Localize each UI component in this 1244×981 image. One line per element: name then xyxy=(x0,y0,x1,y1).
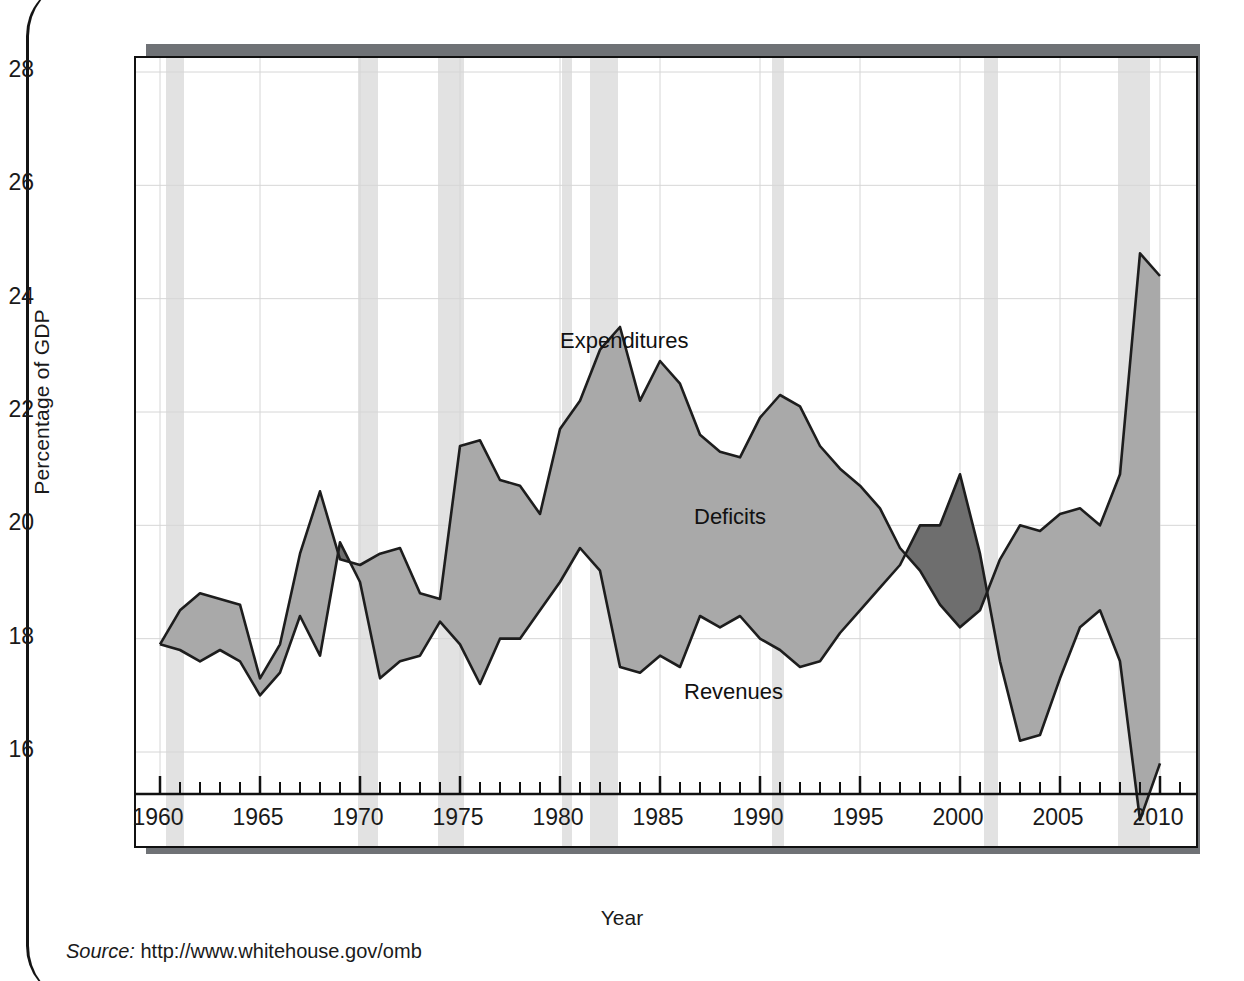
y-tick-label: 28 xyxy=(0,58,34,81)
x-tick-label: 1990 xyxy=(713,806,803,829)
chart-plot-frame xyxy=(134,56,1198,848)
x-tick-label: 2000 xyxy=(913,806,1003,829)
y-tick-label: 26 xyxy=(0,171,34,194)
x-tick-label: 2005 xyxy=(1013,806,1103,829)
annotation-deficits: Deficits xyxy=(694,504,766,530)
x-tick-label: 2010 xyxy=(1113,806,1203,829)
recession-band xyxy=(166,58,184,846)
source-note: Source: http://www.whitehouse.gov/omb xyxy=(66,940,422,963)
x-tick-label: 1970 xyxy=(313,806,403,829)
y-tick-label: 22 xyxy=(0,398,34,421)
x-axis-title: Year xyxy=(0,906,1244,930)
annotation-expenditures: Expenditures xyxy=(560,328,688,354)
recession-band xyxy=(984,58,998,846)
deficit-area xyxy=(350,327,905,684)
source-label: Source: xyxy=(66,940,135,962)
y-tick-label: 16 xyxy=(0,738,34,761)
x-tick-label: 1980 xyxy=(513,806,603,829)
x-axis xyxy=(136,776,1196,794)
recession-band xyxy=(358,58,378,846)
budget-area-chart xyxy=(136,58,1196,846)
x-tick-label: 1965 xyxy=(213,806,303,829)
x-tick-label: 1985 xyxy=(613,806,703,829)
figure-root: Percentage of GDP 16182022242628 1960196… xyxy=(0,0,1244,981)
x-tick-label: 1960 xyxy=(113,806,203,829)
source-url: http://www.whitehouse.gov/omb xyxy=(141,940,422,962)
x-tick-label: 1995 xyxy=(813,806,903,829)
y-tick-label: 20 xyxy=(0,511,34,534)
y-tick-label: 18 xyxy=(0,625,34,648)
y-tick-label: 24 xyxy=(0,285,34,308)
annotation-revenues: Revenues xyxy=(684,679,783,705)
surplus-area xyxy=(905,474,987,627)
x-tick-label: 1975 xyxy=(413,806,503,829)
